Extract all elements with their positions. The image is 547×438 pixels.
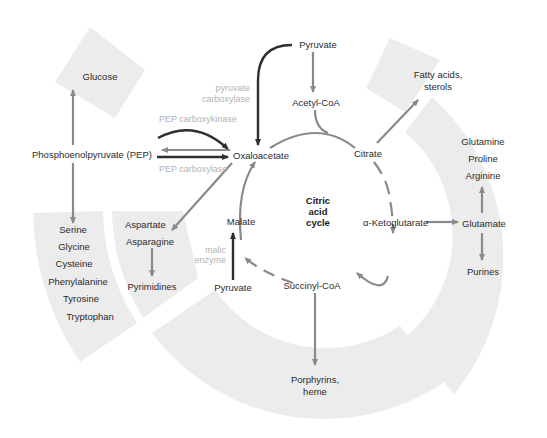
serine-label: Serine: [59, 224, 86, 235]
proline-label: Proline: [468, 153, 498, 164]
glucose-label: Glucose: [83, 71, 118, 82]
oxaloacetate-label: Oxaloacetate: [233, 150, 289, 161]
malic-enzyme-label-2: enzyme: [194, 255, 226, 265]
cycle-arc-malate-oaa: [240, 162, 255, 240]
glycine-label: Glycine: [58, 241, 90, 252]
citrate-label: Citrate: [354, 148, 382, 159]
pep-carboxylase-label: PEP carboxylase: [159, 164, 227, 174]
succinyl-coa-label: Succinyl-CoA: [283, 280, 341, 291]
center-label-1: Citric: [306, 195, 330, 206]
purines-label: Purines: [467, 266, 499, 277]
tyrosine-label: Tyrosine: [63, 293, 99, 304]
glutamate-label: Glutamate: [462, 218, 506, 229]
center-label-3: cycle: [306, 217, 330, 228]
pep-label: Phosphoenolpyruvate (PEP): [32, 149, 152, 160]
glutamine-label: Glutamine: [461, 136, 504, 147]
pyruvate-carboxylase-label-1: pyruvate: [215, 83, 250, 93]
pyrimidines-label: Pyrimidines: [127, 281, 176, 292]
arginine-label: Arginine: [466, 170, 501, 181]
malic-enzyme-label-1: malic: [205, 245, 227, 255]
acetyl-coa-label: Acetyl-CoA: [292, 97, 340, 108]
tryptophan-label: Tryptophan: [66, 311, 114, 322]
phenylalanine-label: Phenylalanine: [48, 276, 108, 287]
fatty-acids-label-2: sterols: [424, 81, 452, 92]
aspartate-label: Aspartate: [125, 219, 166, 230]
center-label-2: acid: [308, 206, 327, 217]
fatty-acids-label-1: Fatty acids,: [414, 69, 463, 80]
citric-acid-cycle-diagram: Pyruvate Acetyl-CoA pyruvate carboxylase…: [0, 0, 547, 438]
pep-carboxykinase-arrow: [158, 130, 228, 149]
cysteine-label: Cysteine: [56, 258, 93, 269]
acetyl-coa-join-arrow: [315, 110, 328, 133]
pyruvate-bottom-label: Pyruvate: [214, 282, 252, 293]
malate-label: Malate: [227, 216, 256, 227]
porphyrins-label-1: Porphyrins,: [291, 374, 339, 385]
pyruvate-carboxylase-label-2: carboxylase: [202, 94, 250, 104]
porphyrins-panel: [152, 290, 446, 419]
porphyrins-label-2: heme: [303, 386, 327, 397]
asparagine-label: Asparagine: [126, 236, 174, 247]
cycle-arc-oaa-citrate: [270, 133, 355, 148]
pyruvate-top-label: Pyruvate: [299, 39, 337, 50]
pep-carboxykinase-label: PEP carboxykinase: [159, 114, 237, 124]
alpha-ketoglutarate-label: α-Ketoglutarate: [363, 217, 428, 228]
pyruvate-carboxylase-arrow: [258, 45, 292, 145]
